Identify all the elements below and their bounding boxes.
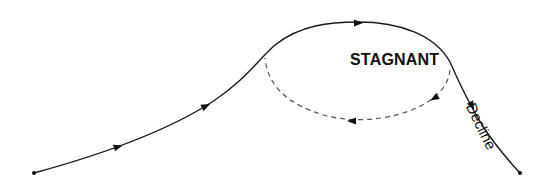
growth-curve bbox=[34, 22, 450, 173]
arrow-icon bbox=[200, 101, 211, 111]
arrow-icon bbox=[354, 20, 363, 27]
diagram-canvas bbox=[0, 0, 550, 182]
end-dot bbox=[518, 171, 522, 175]
start-dot bbox=[32, 171, 36, 175]
arrow-icon bbox=[113, 142, 124, 151]
arrow-icon bbox=[347, 118, 356, 125]
stagnant-label: STAGNANT bbox=[350, 51, 439, 69]
